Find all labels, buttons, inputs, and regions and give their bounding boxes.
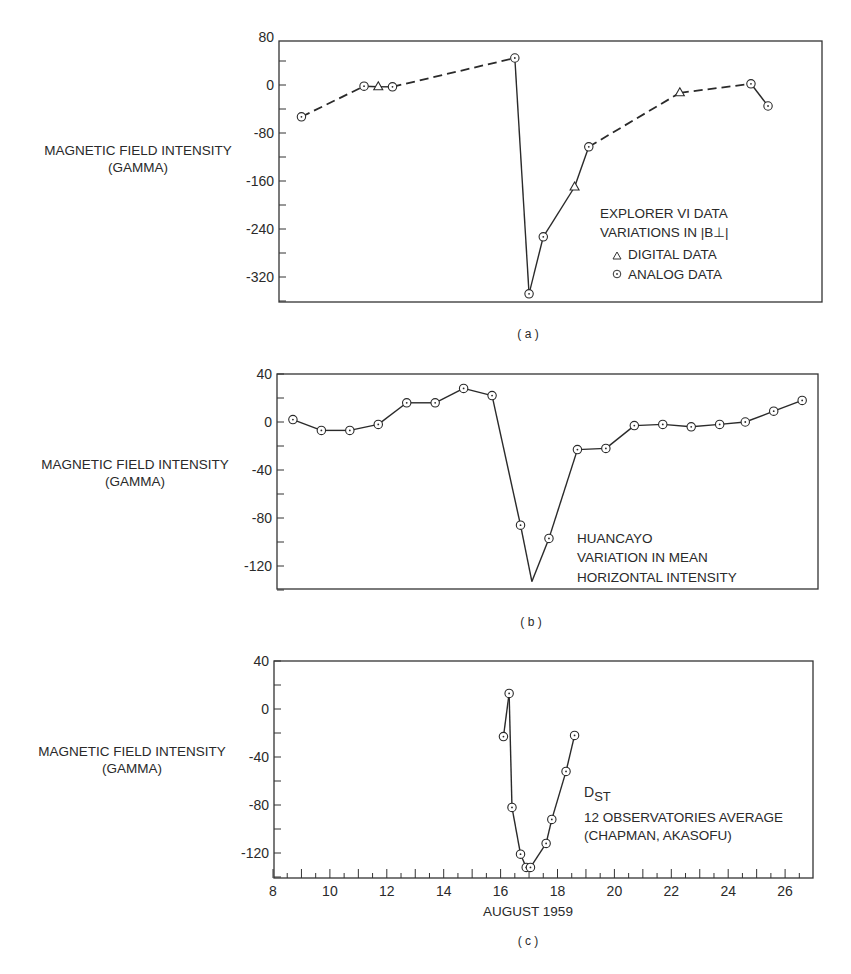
legend-title: HUANCAYO xyxy=(577,531,653,546)
panel-b-legend: HUANCAYO VARIATION IN MEAN HORIZONTAL IN… xyxy=(577,531,737,585)
dst-subscript: ST xyxy=(594,789,611,804)
series-line xyxy=(549,450,577,539)
x-tick-label: 20 xyxy=(607,883,623,899)
series-line xyxy=(509,693,512,807)
series-line xyxy=(552,771,566,819)
panel-c-series xyxy=(499,689,579,871)
y-tick-label: 0 xyxy=(261,701,269,717)
legend-line-2: VARIATION IN MEAN xyxy=(577,550,708,565)
data-point-center xyxy=(565,771,567,773)
data-point-center xyxy=(719,424,721,426)
data-point-center xyxy=(633,425,635,427)
panel-a-y-axis: 800-80-160-240-320 xyxy=(246,29,286,301)
legend-digital-label: DIGITAL DATA xyxy=(628,247,717,262)
series-line xyxy=(301,86,364,117)
panel-b: 400-40-80-120 MAGNETIC FIELD INTENSITY (… xyxy=(41,366,818,629)
y-axis-label-unit: (GAMMA) xyxy=(105,474,165,489)
x-tick-label: 14 xyxy=(436,883,452,899)
series-line xyxy=(492,396,520,526)
data-point-center xyxy=(690,426,692,428)
data-point-center xyxy=(349,430,351,432)
series-line xyxy=(532,538,549,581)
data-point-center xyxy=(292,419,294,421)
panel-b-y-axis: 400-40-80-120 xyxy=(244,366,284,590)
series-line xyxy=(503,693,509,736)
triangle-marker-icon xyxy=(613,252,621,259)
legend-line-3: (CHAPMAN, AKASOFU) xyxy=(584,828,732,843)
y-tick-label: -240 xyxy=(246,221,274,237)
y-tick-label: 40 xyxy=(253,653,269,669)
y-tick-label: -40 xyxy=(249,749,269,765)
digital-data-point xyxy=(374,82,383,90)
data-point-center xyxy=(545,843,547,845)
y-tick-label: -40 xyxy=(252,462,272,478)
data-point-center xyxy=(574,735,576,737)
legend-analog-label: ANALOG DATA xyxy=(628,267,722,282)
series-line xyxy=(435,388,463,402)
data-point-center xyxy=(662,424,664,426)
panel-a-legend: EXPLORER VI DATA VARIATIONS IN |B⊥| DIGI… xyxy=(600,206,729,282)
y-tick-label: -120 xyxy=(241,845,269,861)
dst-symbol: D xyxy=(584,784,594,800)
figure: 800-80-160-240-320 MAGNETIC FIELD INTENS… xyxy=(0,0,851,974)
series-line xyxy=(378,403,406,425)
x-axis-label: AUGUST 1959 xyxy=(483,904,573,919)
series-line xyxy=(529,237,543,294)
x-tick-label: 24 xyxy=(720,883,736,899)
x-tick-label: 8 xyxy=(269,883,277,899)
y-tick-label: 0 xyxy=(266,77,274,93)
data-point-center xyxy=(301,116,303,118)
panel-c-legend: DST 12 OBSERVATORIES AVERAGE (CHAPMAN, A… xyxy=(584,784,783,843)
data-point-center xyxy=(491,395,493,397)
data-point-center xyxy=(548,538,550,540)
legend-title: DST xyxy=(584,784,611,804)
digital-data-point xyxy=(570,182,579,190)
y-tick-label: -80 xyxy=(252,510,272,526)
data-point-center xyxy=(744,421,746,423)
data-point-center xyxy=(520,524,522,526)
x-tick-label: 12 xyxy=(379,883,395,899)
panel-a: 800-80-160-240-320 MAGNETIC FIELD INTENS… xyxy=(44,29,822,341)
x-tick-label: 16 xyxy=(493,883,509,899)
data-point-center xyxy=(503,736,505,738)
y-axis-label-unit: (GAMMA) xyxy=(108,160,168,175)
data-point-center xyxy=(551,819,553,821)
data-point-center xyxy=(514,57,516,59)
data-point-center xyxy=(530,867,532,869)
panel-c-x-axis: 8101214161820222426 xyxy=(269,869,799,899)
series-line xyxy=(606,426,634,449)
data-point-center xyxy=(463,388,465,390)
data-point-center xyxy=(605,448,607,450)
data-point-center xyxy=(511,807,513,809)
y-tick-label: -320 xyxy=(246,269,274,285)
y-tick-label: 80 xyxy=(258,29,274,45)
y-axis-label: MAGNETIC FIELD INTENSITY xyxy=(41,457,229,472)
series-line xyxy=(521,525,532,581)
series-line xyxy=(392,58,514,87)
panel-a-frame xyxy=(279,41,822,302)
panel-c-caption: ( c ) xyxy=(518,934,539,948)
data-point-center xyxy=(801,400,803,402)
series-line xyxy=(566,735,575,771)
y-axis-label: MAGNETIC FIELD INTENSITY xyxy=(38,744,226,759)
data-point-center xyxy=(767,105,769,107)
series-line xyxy=(575,147,589,187)
legend-title: EXPLORER VI DATA xyxy=(600,206,728,221)
y-tick-label: -80 xyxy=(249,797,269,813)
panel-b-caption: ( b ) xyxy=(520,615,541,629)
data-point-center xyxy=(528,293,530,295)
data-point-center xyxy=(542,236,544,238)
data-point-center xyxy=(377,424,379,426)
data-point-center xyxy=(520,853,522,855)
series-line xyxy=(515,58,529,294)
data-point-center xyxy=(320,430,322,432)
series-line xyxy=(543,187,574,237)
panel-a-caption: ( a ) xyxy=(517,327,538,341)
panel-b-series xyxy=(289,384,807,581)
data-point-center xyxy=(750,83,752,85)
x-tick-label: 22 xyxy=(664,883,680,899)
series-line xyxy=(589,93,680,147)
y-axis-label: MAGNETIC FIELD INTENSITY xyxy=(44,143,232,158)
circle-dot-center xyxy=(616,273,618,275)
legend-line-2: 12 OBSERVATORIES AVERAGE xyxy=(584,810,783,825)
